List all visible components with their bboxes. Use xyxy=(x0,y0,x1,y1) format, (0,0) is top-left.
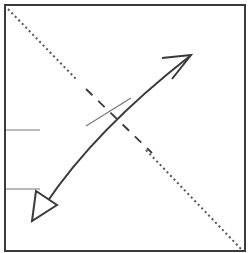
diagram-svg xyxy=(0,0,248,253)
origami-diagram xyxy=(0,0,248,253)
